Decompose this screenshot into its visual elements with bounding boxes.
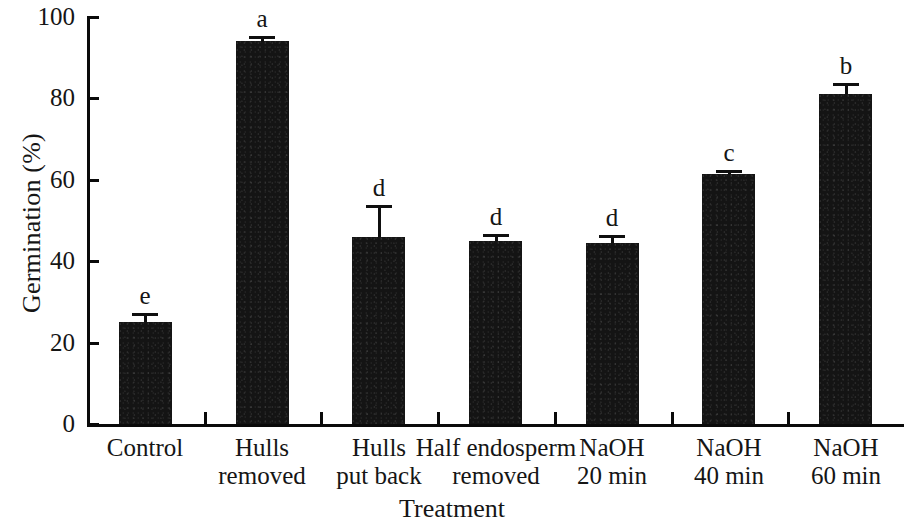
y-axis-tick bbox=[87, 260, 99, 263]
significance-letter: e bbox=[120, 283, 170, 308]
bar bbox=[702, 174, 755, 424]
bar bbox=[586, 243, 639, 424]
error-bar-stem bbox=[378, 205, 381, 237]
x-axis-line bbox=[87, 424, 904, 427]
x-axis-tick bbox=[320, 412, 323, 425]
y-axis-tick-label: 80 bbox=[5, 85, 75, 110]
x-axis-tick bbox=[204, 412, 207, 425]
y-axis-tick bbox=[87, 179, 99, 182]
x-axis-title: Treatment bbox=[0, 494, 904, 524]
error-bar-cap bbox=[599, 235, 625, 238]
x-axis-tick bbox=[787, 412, 790, 425]
y-axis-tick-label: 0 bbox=[5, 411, 75, 436]
bar bbox=[352, 237, 405, 424]
y-axis-line bbox=[87, 17, 90, 426]
error-bar-cap bbox=[833, 83, 859, 86]
bar bbox=[469, 241, 522, 424]
significance-letter: d bbox=[354, 175, 404, 200]
bar bbox=[236, 41, 289, 424]
x-axis-tick bbox=[554, 412, 557, 425]
error-bar-cap bbox=[132, 313, 158, 316]
y-axis-tick bbox=[87, 342, 99, 345]
significance-letter: d bbox=[471, 204, 521, 229]
x-axis-tick bbox=[437, 412, 440, 425]
germination-bar-chart: Germination (%) 020406080100 eadddcb Con… bbox=[0, 0, 904, 527]
error-bar-cap bbox=[483, 234, 509, 237]
significance-letter: b bbox=[821, 53, 871, 78]
y-axis-tick bbox=[87, 16, 99, 19]
y-axis-tick-label: 40 bbox=[5, 248, 75, 273]
category-label-line: 60 min bbox=[756, 462, 904, 490]
x-axis-category-label: NaOH60 min bbox=[756, 434, 904, 490]
y-axis-tick bbox=[87, 97, 99, 100]
y-axis-title: Germination (%) bbox=[17, 113, 47, 333]
significance-letter: c bbox=[704, 140, 754, 165]
y-axis-tick-label: 20 bbox=[5, 330, 75, 355]
bar bbox=[819, 94, 872, 424]
error-bar-cap bbox=[366, 205, 392, 208]
y-axis-tick bbox=[87, 423, 99, 426]
bar bbox=[119, 322, 172, 424]
significance-letter: d bbox=[587, 205, 637, 230]
y-axis-tick-label: 100 bbox=[5, 4, 75, 29]
significance-letter: a bbox=[237, 6, 287, 31]
y-axis-tick-label: 60 bbox=[5, 167, 75, 192]
error-bar-cap bbox=[249, 36, 275, 39]
category-label-line: NaOH bbox=[756, 434, 904, 462]
error-bar-cap bbox=[716, 170, 742, 173]
x-axis-tick bbox=[671, 412, 674, 425]
